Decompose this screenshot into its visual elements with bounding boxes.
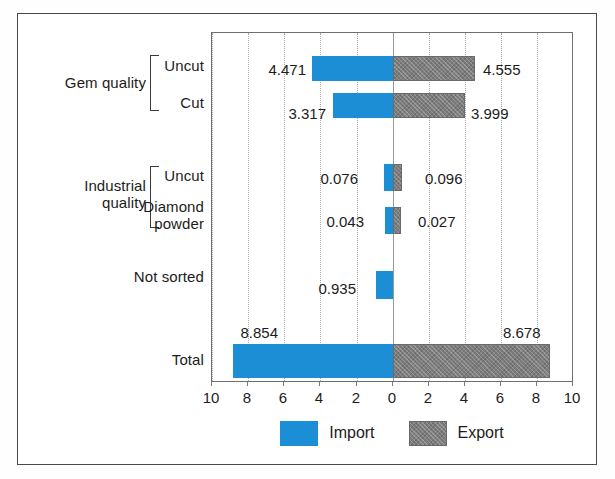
value-import-industrial-uncut: 0.076 — [284, 171, 358, 186]
tick-label-4: 4 — [451, 390, 477, 405]
tick-mark--2 — [356, 382, 357, 386]
bar-import-total — [233, 344, 393, 378]
row-label-diamond-powder: Diamond powder — [60, 198, 204, 232]
legend-swatch-import-icon — [280, 421, 318, 446]
value-export-industrial-uncut: 0.096 — [425, 171, 499, 186]
tick-label-10: 10 — [559, 390, 585, 405]
tick-label--2: 2 — [343, 390, 369, 405]
bar-import-gem-uncut — [312, 56, 393, 81]
tick-mark--4 — [319, 382, 320, 386]
gridline--4 — [320, 33, 322, 381]
value-export-total: 8.678 — [503, 325, 577, 340]
bar-import-not-sorted — [376, 271, 393, 299]
tick-label-2: 2 — [415, 390, 441, 405]
bar-export-diamond-powder — [393, 207, 401, 234]
gridline-2 — [429, 33, 431, 381]
group-label-gem-quality: Gem quality — [18, 74, 146, 91]
gridline--6 — [284, 33, 286, 381]
legend-item-export[interactable]: Export — [409, 421, 504, 446]
tick-mark-10 — [572, 382, 573, 386]
value-import-diamond-powder: 0.043 — [290, 214, 364, 229]
tick-label--10: 10 — [198, 390, 224, 405]
bar-export-total — [393, 344, 550, 378]
tick-mark-2 — [428, 382, 429, 386]
tick-mark--8 — [247, 382, 248, 386]
bar-import-gem-cut — [333, 93, 393, 118]
legend-item-import[interactable]: Import — [280, 421, 374, 446]
tick-mark-4 — [464, 382, 465, 386]
tick-mark-0 — [392, 382, 393, 386]
value-import-not-sorted: 0.935 — [282, 281, 356, 296]
chart-legend: Import Export — [211, 416, 573, 450]
value-export-diamond-powder: 0.027 — [418, 214, 492, 229]
tick-label-0: 0 — [379, 390, 405, 405]
bar-import-industrial-uncut — [384, 164, 393, 191]
gridline--2 — [357, 33, 359, 381]
row-label-not-sorted: Not sorted — [40, 268, 204, 285]
bar-export-gem-cut — [393, 93, 465, 118]
legend-label-export: Export — [458, 424, 504, 442]
value-import-gem-cut: 3.317 — [252, 106, 326, 121]
value-export-gem-cut: 3.999 — [471, 106, 545, 121]
tick-mark-6 — [500, 382, 501, 386]
gridline-4 — [465, 33, 467, 381]
bar-export-industrial-uncut — [393, 164, 402, 191]
tick-label--8: 8 — [234, 390, 260, 405]
value-import-total: 8.854 — [204, 325, 278, 340]
tick-label--6: 6 — [270, 390, 296, 405]
row-label-gem-cut: Cut — [60, 94, 204, 111]
legend-swatch-export-icon — [409, 421, 447, 446]
row-label-total: Total — [60, 351, 204, 368]
tick-label-6: 6 — [487, 390, 513, 405]
value-import-gem-uncut: 4.471 — [232, 62, 306, 77]
tick-label--4: 4 — [306, 390, 332, 405]
row-label-gem-uncut: Uncut — [60, 57, 204, 74]
figure-root: Gem quality Industrial quality Uncut Cut… — [0, 0, 615, 479]
legend-label-import: Import — [329, 424, 374, 442]
row-label-industrial-uncut: Uncut — [60, 167, 204, 184]
tick-mark-8 — [536, 382, 537, 386]
tick-mark--10 — [211, 382, 212, 386]
bar-import-diamond-powder — [385, 207, 393, 234]
bar-export-gem-uncut — [393, 56, 475, 81]
tick-label-8: 8 — [523, 390, 549, 405]
plot-area: 4.471 4.555 3.317 3.999 0.076 0.096 0.04… — [211, 32, 573, 382]
value-export-gem-uncut: 4.555 — [483, 62, 557, 77]
tick-mark--6 — [283, 382, 284, 386]
